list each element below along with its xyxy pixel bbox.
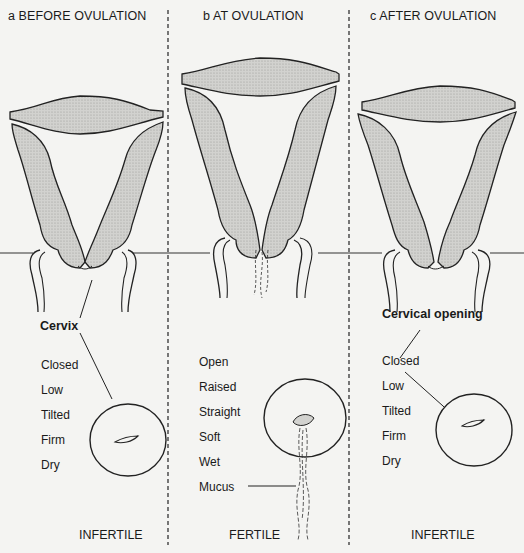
panel-b-conditions: Open Raised Straight Soft Wet Mucus [199,355,240,505]
panel-c-title: c AFTER OVULATION [370,9,497,23]
uterus-diagrams [0,0,524,553]
condition-item: Raised [199,380,240,405]
condition-item: Firm [41,433,78,458]
condition-item: Tilted [382,404,419,429]
cervix-label: Cervix [40,319,78,333]
panel-b-fertility: FERTILE [229,528,280,542]
condition-item: Dry [382,454,419,479]
condition-item: Open [199,355,240,380]
cervical-opening-label: Cervical opening [382,307,483,321]
panel-c-fertility: INFERTILE [411,528,475,542]
panel-a-conditions: Closed Low Tilted Firm Dry [41,358,78,483]
condition-item: Wet [199,455,240,480]
panel-a-title: a BEFORE OVULATION [8,9,146,23]
mucus-label: Mucus [199,480,240,505]
panel-c-conditions: Closed Low Tilted Firm Dry [382,354,419,479]
condition-item: Closed [41,358,78,383]
condition-item: Soft [199,430,240,455]
figure-canvas: a BEFORE OVULATION b AT OVULATION c AFTE… [0,0,524,553]
condition-item: Low [41,383,78,408]
condition-item: Closed [382,354,419,379]
condition-item: Low [382,379,419,404]
panel-a-fertility: INFERTILE [79,528,143,542]
uterus-before-ovulation [10,96,166,476]
condition-item: Dry [41,458,78,483]
condition-item: Tilted [41,408,78,433]
panel-b-title: b AT OVULATION [203,9,304,23]
condition-item: Firm [382,429,419,454]
condition-item: Straight [199,405,240,430]
